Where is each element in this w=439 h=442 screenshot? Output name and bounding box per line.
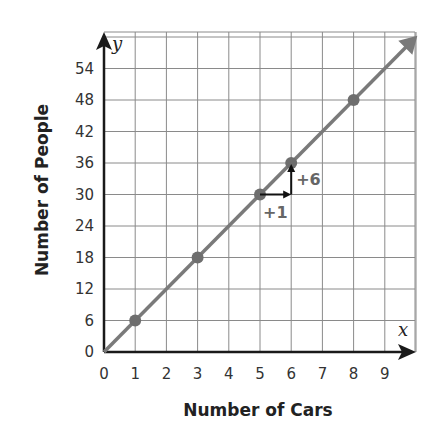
y-tick-label: 48	[75, 91, 94, 109]
x-tick-label: 6	[286, 365, 296, 383]
x-tick-label: 9	[380, 365, 390, 383]
y-axis-variable: y	[111, 33, 123, 54]
data-point	[129, 315, 141, 327]
y-tick-label: 42	[75, 123, 94, 141]
y-tick-label: 36	[75, 154, 94, 172]
chart-canvas: 0123456789061218243036424854 +1+6 Number…	[0, 0, 439, 442]
run-arrowhead-icon	[283, 191, 291, 199]
run-label: +1	[263, 203, 288, 222]
annotations: +1+6	[260, 164, 321, 222]
rise-label: +6	[296, 170, 321, 189]
y-tick-label: 18	[75, 249, 94, 267]
y-tick-label: 30	[75, 186, 94, 204]
x-tick-label: 2	[162, 365, 172, 383]
y-tick-label: 0	[84, 343, 94, 361]
y-tick-label: 24	[75, 217, 94, 235]
x-tick-label: 3	[193, 365, 203, 383]
x-tick-label: 8	[349, 365, 359, 383]
y-axis-title: Number of People	[32, 104, 52, 276]
x-axis-variable: x	[398, 319, 408, 340]
data-point	[192, 252, 204, 264]
y-tick-label: 12	[75, 280, 94, 298]
y-tick-label: 6	[84, 312, 94, 330]
data-point	[348, 94, 360, 106]
data-line	[104, 46, 407, 352]
x-axis-title: Number of Cars	[183, 400, 333, 420]
x-tick-label: 1	[130, 365, 140, 383]
y-tick-label: 54	[75, 60, 94, 78]
x-tick-label: 0	[99, 365, 109, 383]
x-tick-label: 5	[255, 365, 265, 383]
x-tick-label: 4	[224, 365, 234, 383]
x-tick-label: 7	[318, 365, 328, 383]
